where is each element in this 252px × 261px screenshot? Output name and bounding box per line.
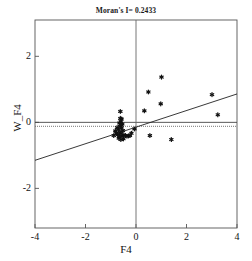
y-tick-label: 2 — [5, 50, 31, 61]
data-point — [112, 134, 115, 138]
data-point — [122, 137, 125, 141]
moran-scatterplot-figure: Moran's I= 0.2433 W_F4 F4 2 0 -2 -4 -2 0… — [0, 0, 252, 261]
x-axis-label: F4 — [0, 243, 252, 255]
x-tick-label: -2 — [73, 231, 99, 242]
x-tick-label: 2 — [174, 231, 200, 242]
data-point — [216, 113, 219, 117]
plot-canvas — [0, 0, 252, 261]
data-points — [112, 75, 219, 141]
data-point — [210, 93, 213, 97]
data-point — [120, 123, 123, 127]
data-point — [119, 110, 122, 114]
data-point — [143, 109, 146, 113]
data-point — [160, 75, 163, 79]
x-tick-label: 4 — [224, 231, 250, 242]
x-tick-label: -4 — [22, 231, 48, 242]
data-point — [119, 116, 122, 120]
data-point — [115, 126, 118, 130]
y-tick-label: 0 — [5, 116, 31, 127]
data-point — [159, 102, 162, 106]
data-point — [130, 131, 133, 135]
data-point — [147, 90, 150, 94]
x-tick-label: 0 — [123, 231, 149, 242]
chart-title: Moran's I= 0.2433 — [0, 6, 252, 15]
reference-lines — [35, 20, 237, 228]
data-point — [148, 134, 151, 138]
data-point — [170, 138, 173, 142]
data-point — [133, 127, 136, 131]
y-tick-label: -2 — [5, 182, 31, 193]
